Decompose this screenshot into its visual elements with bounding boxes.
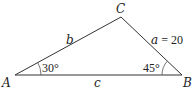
side-label-c: c: [94, 76, 101, 90]
side-label-a-var: a: [151, 33, 158, 47]
angle-arc-a: [38, 62, 42, 75]
vertex-label-b: B: [182, 76, 192, 90]
angle-label-b: 45°: [143, 61, 160, 75]
vertex-label-c: C: [116, 2, 125, 16]
angle-label-a: 30°: [42, 61, 59, 75]
side-label-a: a = 20: [151, 33, 183, 47]
vertex-label-a: A: [1, 76, 11, 90]
side-label-a-value: = 20: [158, 33, 183, 47]
side-label-b: b: [66, 33, 74, 47]
angle-arc-b: [162, 61, 168, 75]
triangle-diagram: A B C b c a = 20 30° 45°: [0, 0, 194, 93]
